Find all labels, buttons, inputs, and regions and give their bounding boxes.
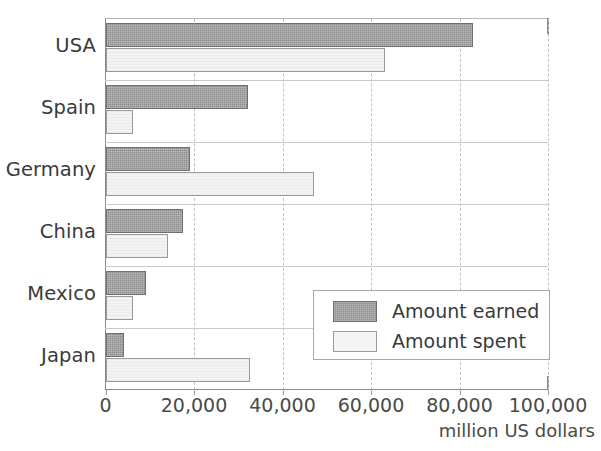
bar-usa-amount-earned: [106, 23, 473, 47]
x-tick-label-40000: 40,000: [249, 394, 315, 416]
legend-label-amount-spent: Amount spent: [392, 330, 526, 352]
x-tick-label-0: 0: [99, 394, 111, 416]
category-separator-germany: [105, 204, 548, 205]
legend-item-amount-earned: Amount earned: [333, 298, 539, 324]
x-tick-label-100000: 100,000: [509, 394, 588, 416]
x-tick-label-60000: 60,000: [338, 394, 404, 416]
bar-usa-amount-spent: [106, 48, 385, 72]
legend-swatch-spent-icon: [333, 331, 377, 352]
bar-japan-amount-spent: [106, 358, 250, 382]
bar-germany-amount-earned: [106, 147, 190, 171]
bar-spain-amount-earned: [106, 85, 248, 109]
x-tick-label-20000: 20,000: [161, 394, 227, 416]
bar-japan-amount-earned: [106, 333, 124, 357]
x-axis-unit-label: million US dollars: [439, 420, 595, 441]
category-label-spain: Spain: [0, 96, 96, 119]
legend-label-amount-earned: Amount earned: [392, 300, 539, 322]
bar-spain-amount-spent: [106, 110, 133, 134]
category-separator-spain: [105, 142, 548, 143]
legend-item-amount-spent: Amount spent: [333, 328, 526, 354]
category-label-germany: Germany: [0, 158, 96, 181]
bar-germany-amount-spent: [106, 172, 314, 196]
bar-china-amount-earned: [106, 209, 183, 233]
bar-china-amount-spent: [106, 234, 168, 258]
legend-swatch-earned-icon: [333, 301, 377, 322]
category-label-japan: Japan: [0, 344, 96, 367]
category-label-china: China: [0, 220, 96, 243]
bar-chart-screenshot: USASpainGermanyChinaMexicoJapan 020,0004…: [0, 0, 601, 451]
chart-legend: Amount earned Amount spent: [313, 290, 550, 360]
bar-mexico-amount-earned: [106, 271, 146, 295]
bar-mexico-amount-spent: [106, 296, 133, 320]
category-separator-china: [105, 266, 548, 267]
category-separator-usa: [105, 80, 548, 81]
category-label-mexico: Mexico: [0, 282, 96, 305]
category-label-usa: USA: [0, 34, 96, 57]
x-tick-label-80000: 80,000: [426, 394, 492, 416]
